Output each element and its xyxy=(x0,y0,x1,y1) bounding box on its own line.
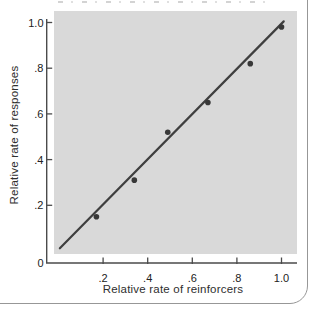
y-tick-label: .4 xyxy=(34,154,43,166)
figure-panel: .2.4.6.81.0.2.4.6.81.00 Relative rate of… xyxy=(0,0,321,318)
y-tick-label: .6 xyxy=(34,108,43,120)
data-point xyxy=(165,129,171,135)
y-tick-label: .8 xyxy=(34,62,43,74)
data-point xyxy=(247,61,253,67)
data-point xyxy=(94,214,100,220)
data-point xyxy=(205,100,211,106)
y-axis-title: Relative rate of responses xyxy=(8,66,20,205)
y-tick-label: .2 xyxy=(34,199,43,211)
data-point xyxy=(279,24,285,30)
y-tick-label: 1.0 xyxy=(28,17,43,29)
data-point xyxy=(132,177,138,183)
matching-law-chart: .2.4.6.81.0.2.4.6.81.00 xyxy=(0,0,321,318)
x-axis-title: Relative rate of reinforcers xyxy=(53,283,293,295)
origin-tick-label: 0 xyxy=(37,257,43,269)
